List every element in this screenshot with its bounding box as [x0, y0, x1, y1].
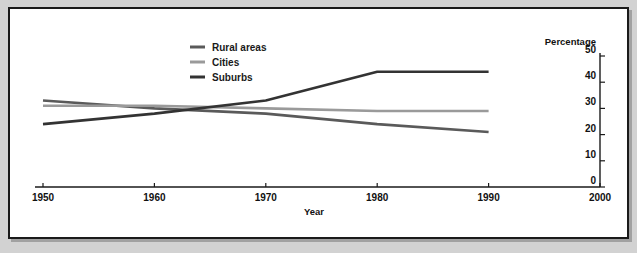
y-tick-label-20: 20 — [585, 123, 597, 134]
x-tick-label-1960: 1960 — [143, 192, 166, 203]
y-tick-label-0: 0 — [590, 175, 596, 186]
x-tick-label-1950: 1950 — [32, 192, 55, 203]
figure-frame: Rural areasCitiesSuburbs 195019601970198… — [0, 0, 637, 253]
chart-area: Rural areasCitiesSuburbs 195019601970198… — [8, 7, 629, 239]
y-tick-label-40: 40 — [585, 70, 597, 81]
x-tick-label-1990: 1990 — [477, 192, 500, 203]
legend-label-suburbs: Suburbs — [212, 72, 253, 83]
legend-label-cities: Cities — [212, 57, 240, 68]
series-line-suburbs — [43, 72, 489, 124]
x-tick-label-2000: 2000 — [589, 192, 612, 203]
x-tick-label-1970: 1970 — [255, 192, 278, 203]
y-tick-label-30: 30 — [585, 96, 597, 107]
y-axis-title: Percentage — [545, 36, 596, 47]
y-tick-label-10: 10 — [585, 149, 597, 160]
legend-label-rural-areas: Rural areas — [212, 42, 267, 53]
x-axis-ticks: 195019601970198019902000 — [32, 183, 612, 203]
line-chart: Rural areasCitiesSuburbs 195019601970198… — [8, 7, 629, 239]
x-axis-title: Year — [304, 206, 324, 217]
series-group — [43, 72, 489, 132]
chart-legend: Rural areasCitiesSuburbs — [190, 42, 267, 83]
series-line-cities — [43, 106, 489, 111]
x-tick-label-1980: 1980 — [366, 192, 389, 203]
y-axis-ticks: 01020304050 — [585, 44, 605, 187]
